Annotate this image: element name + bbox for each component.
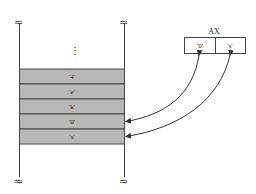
memory-cell: 'e' — [20, 84, 125, 99]
break-symbol-top-right: ≈ — [119, 16, 128, 29]
break-symbol-bottom-right: ≈ — [119, 175, 128, 188]
register-slot-label: '0' — [197, 42, 203, 50]
memory-cell: '0' — [20, 114, 125, 129]
memory-cell-label: '0' — [69, 118, 75, 126]
memory-cells: '4' 'e' 'k' '0' 's' — [20, 69, 125, 144]
memory-cell-label: 'e' — [69, 88, 75, 96]
ellipsis-icon: ⋮ — [70, 45, 80, 56]
memory-cell: 'k' — [20, 99, 125, 114]
break-symbol-bottom-left: ≈ — [14, 175, 23, 188]
register-name: AX — [208, 27, 220, 36]
break-symbol-top-left: ≈ — [14, 16, 23, 29]
memory-cell: '4' — [20, 69, 125, 84]
memory-cell: 's' — [20, 129, 125, 144]
register-box: '0' 's' — [185, 38, 246, 54]
memory-cell-label: 'k' — [69, 103, 75, 111]
memory-cell-label: '4' — [69, 73, 75, 81]
memory-cell-label: 's' — [69, 133, 74, 141]
arrow-icon — [126, 55, 230, 137]
arrow-icon — [126, 55, 199, 122]
stack-diagram: ≈ ≈ ≈ ≈ ⋮ '4' 'e' 'k' '0' 's' AX — [0, 0, 256, 194]
register-slot-label: 's' — [227, 42, 232, 50]
